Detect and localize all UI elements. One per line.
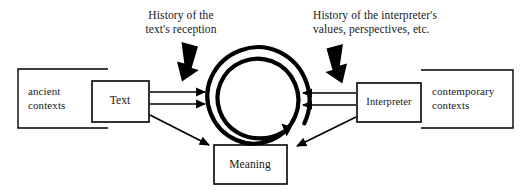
thick-arrow-interpreter-values xyxy=(325,44,347,84)
annotation-text-reception: History of the text's reception xyxy=(126,9,236,36)
interpreter-box-label: Interpreter xyxy=(356,95,422,108)
thick-arrow-text-reception xyxy=(177,42,199,82)
hermeneutical-circle-diagram: History of the text's reception History … xyxy=(0,0,527,193)
contemporary-contexts-label: contemporary contexts xyxy=(432,85,514,112)
meaning-box-label: Meaning xyxy=(214,158,286,171)
text-box-label: Text xyxy=(92,94,148,107)
annotation-interpreter-values: History of the interpreter's values, per… xyxy=(313,9,509,36)
spiral-path xyxy=(207,47,309,143)
arrow-text-to-meaning xyxy=(150,115,209,145)
ancient-contexts-label: ancient contexts xyxy=(28,85,90,112)
hermeneutic-spiral xyxy=(207,47,309,143)
